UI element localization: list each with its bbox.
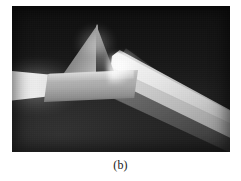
- prism-photograph: [12, 6, 230, 152]
- photo-grain-texture: [12, 6, 230, 152]
- figure-caption: (b): [0, 158, 241, 173]
- figure-container: (b): [0, 0, 241, 181]
